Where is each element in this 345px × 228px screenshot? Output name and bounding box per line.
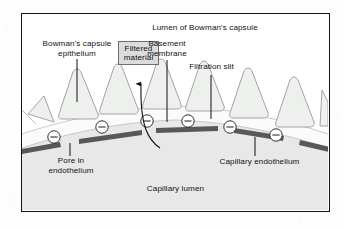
foot-process-6 (276, 77, 315, 127)
charge-marker-4 (182, 115, 194, 127)
diagram-frame: Lumen of Bowman's capsule Bowman's capsu… (21, 13, 330, 212)
label-bowmans-capsule-epithelium: Bowman's capsule epithelium (31, 39, 123, 58)
charge-marker-6 (270, 129, 282, 141)
foot-process-7-partial (320, 90, 328, 126)
charge-marker-2 (96, 121, 108, 133)
figure-root: Lumen of Bowman's capsule Bowman's capsu… (0, 0, 345, 228)
label-capillary-endothelium: Capillary endothelium (212, 157, 307, 167)
foot-process-1 (59, 69, 99, 119)
charge-marker-1 (48, 131, 60, 143)
label-basement-membrane: Basement membrane (138, 39, 196, 58)
label-capillary-lumen: Capillary lumen (123, 184, 228, 194)
foot-process-3 (143, 59, 182, 109)
label-lumen-of-bowmans-capsule: Lumen of Bowman's capsule (135, 23, 275, 33)
label-filtration-slit: Filtration slit (181, 62, 242, 72)
foot-process-2 (100, 64, 139, 114)
foot-process-0 (28, 96, 54, 122)
foot-process-5 (230, 68, 269, 118)
charge-marker-5 (224, 121, 236, 133)
label-pore-in-endothelium: Pore in endothelium (33, 156, 109, 175)
